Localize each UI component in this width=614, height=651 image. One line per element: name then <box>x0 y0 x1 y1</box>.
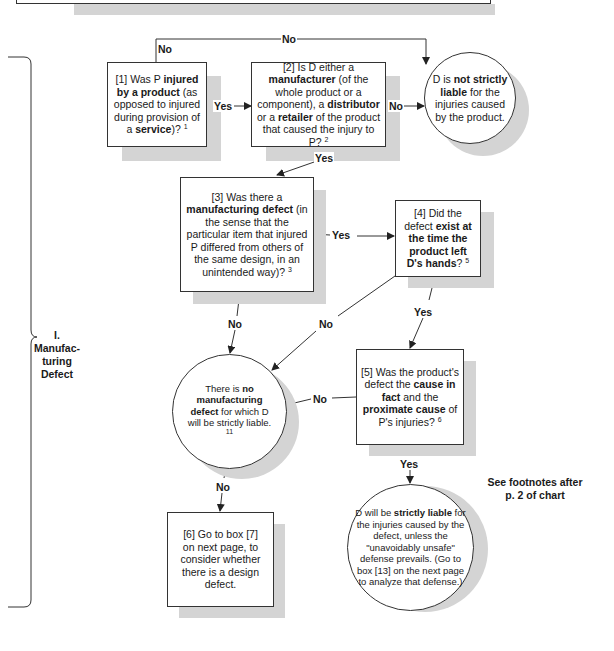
section-label: I. Manufac- turing Defect <box>26 329 88 381</box>
footnote-ref: 1 <box>184 123 188 130</box>
text: D will be <box>355 507 394 518</box>
text: Was P <box>127 73 163 85</box>
edge-label-no-box5: No <box>312 393 328 405</box>
edge-label-no-box2-outcome: No <box>388 100 404 112</box>
section-number: I. <box>26 329 88 342</box>
edge-label-no-box4: No <box>318 318 334 330</box>
footnote-ref: 5 <box>465 257 469 264</box>
bold-text: retailer <box>278 111 313 123</box>
edge-label-yes-box1-box2: Yes <box>213 100 233 112</box>
text: or a <box>257 111 278 123</box>
section-title-line: turing <box>26 355 88 368</box>
edge-label-no-box1-top: No <box>157 43 173 55</box>
text: Is D either a <box>295 61 355 73</box>
box-id: [4] <box>414 207 426 219</box>
edge-label-yes-box3-box4: Yes <box>331 229 351 241</box>
outcome-not-strictly-liable[interactable]: D is not strictly liable for the injurie… <box>424 52 516 144</box>
footnote-line: p. 2 of chart <box>480 489 590 502</box>
section-title-line: Defect <box>26 368 88 381</box>
bold-text: manufacturing defect <box>186 203 293 215</box>
edge-label-no-box3: No <box>227 318 243 330</box>
edge-label-no-top-loop: No <box>281 33 297 45</box>
box6-go-to-design-defect[interactable]: [6] Go to box [7] on next page, to consi… <box>167 512 274 607</box>
edge-label-no-to-box6: No <box>215 481 231 493</box>
edge-label-yes-box4-box5: Yes <box>413 306 433 318</box>
bold-text: strictly liable <box>394 507 452 518</box>
footnote-ref: 11 <box>226 428 233 435</box>
text: [6] Go to box [7] on next page, to consi… <box>176 528 265 591</box>
footnote-note: See footnotes after p. 2 of chart <box>480 476 590 502</box>
footnote-ref: 2 <box>324 135 328 142</box>
outcome-strictly-liable[interactable]: D will be strictly liable for the injuri… <box>347 484 474 611</box>
edge-label-yes-box5-outcome: Yes <box>399 458 419 470</box>
edge-label-yes-box2-box3: Yes <box>314 152 334 164</box>
box5-causation[interactable]: [5] Was the product's defect the cause i… <box>356 349 464 445</box>
text: for the injuries caused by the defect, u… <box>357 507 466 587</box>
outcome-no-manufacturing-defect[interactable]: There is no manufacturing defect for whi… <box>172 354 287 469</box>
footnote-line: See footnotes after <box>480 476 590 489</box>
box3-manufacturing-defect[interactable]: [3] Was there a manufacturing defect (in… <box>180 177 314 292</box>
box-id: [2] <box>283 61 295 73</box>
section-title-line: Manufac- <box>26 342 88 355</box>
text: Was there a <box>223 191 282 203</box>
bold-text: distributor <box>327 98 380 110</box>
footnote-ref: 3 <box>288 265 292 272</box>
text: D is <box>433 73 454 85</box>
box-id: [5] <box>361 366 373 378</box>
footnote-ref: 6 <box>438 415 442 422</box>
box2-manufacturer-distributor-retailer[interactable]: [2] Is D either a manufacturer (of the w… <box>251 62 386 147</box>
box4-defect-existed[interactable]: [4] Did the defect exist at the time the… <box>395 200 481 277</box>
box1-injured-by-product[interactable]: [1] Was P injured by a product (as oppos… <box>107 62 207 147</box>
text: ? <box>457 257 466 269</box>
text: There is <box>205 383 242 394</box>
bold-text: service <box>135 123 171 135</box>
box-id: [1] <box>116 73 128 85</box>
text: )? <box>171 123 183 135</box>
bold-text: manufacturer <box>269 73 336 85</box>
text: and the <box>400 391 438 403</box>
box-id: [3] <box>212 191 224 203</box>
bold-text: proximate cause <box>363 403 446 415</box>
